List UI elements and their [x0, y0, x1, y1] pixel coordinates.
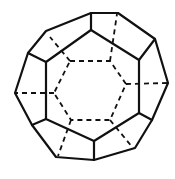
visible-edge: [139, 113, 152, 120]
visible-edge: [139, 39, 155, 60]
visible-edge: [28, 53, 46, 62]
hidden-hexagon: [54, 61, 126, 120]
hidden-edge: [126, 83, 168, 84]
front-hexagon: [46, 30, 139, 141]
hidden-edge: [110, 14, 117, 61]
polyhedron-diagram: [0, 0, 175, 179]
visible-edges: [15, 13, 168, 160]
visible-edge: [32, 119, 46, 125]
outer-outline: [15, 13, 168, 160]
